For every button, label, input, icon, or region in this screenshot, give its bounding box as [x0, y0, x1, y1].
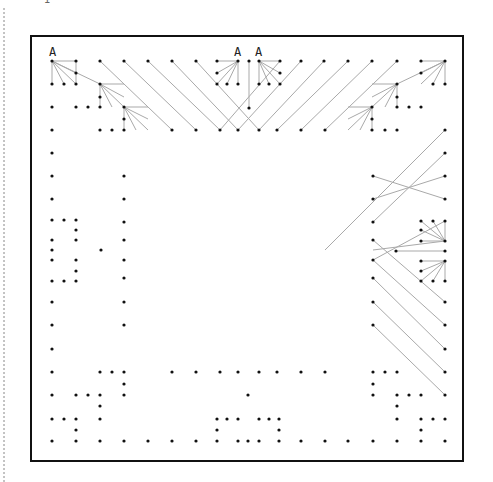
pin-dot: [146, 59, 149, 62]
bond-wire: [52, 61, 76, 84]
pin-dot: [50, 128, 53, 131]
pin-dot: [122, 276, 125, 279]
bond-wire: [100, 61, 172, 130]
pin-dot: [74, 228, 77, 231]
pin-dot: [62, 417, 65, 420]
pin-dot: [371, 258, 374, 261]
pin-dot: [299, 439, 302, 442]
pin-dot: [110, 370, 113, 373]
pin-dot: [443, 300, 446, 303]
pin-dot: [74, 82, 77, 85]
pin-dot: [371, 238, 374, 241]
pin-dot: [236, 417, 239, 420]
pin-dot: [215, 439, 218, 442]
pin-dot: [194, 439, 197, 442]
pin-dot: [194, 370, 197, 373]
bond-wire: [124, 61, 196, 130]
pin-dot: [236, 82, 239, 85]
pin-dot: [74, 59, 77, 62]
pin-dot: [122, 197, 125, 200]
pin-dot: [443, 439, 446, 442]
pin-dot: [215, 417, 218, 420]
pin-dot: [395, 417, 398, 420]
pin-dot: [99, 248, 102, 251]
pin-label: A: [49, 45, 57, 59]
pin-dot: [431, 219, 434, 222]
pin-dot: [247, 106, 250, 109]
pin-dot: [122, 300, 125, 303]
pin-dot: [50, 323, 53, 326]
pin-dot: [371, 393, 374, 396]
pin-dot: [443, 370, 446, 373]
pin-label: A: [255, 45, 263, 59]
pin-dot: [98, 105, 101, 108]
pin-dot: [74, 258, 77, 261]
pin-dot: [278, 59, 281, 62]
pin-dot: [407, 105, 410, 108]
pin-grid: [50, 59, 446, 442]
pin-dot: [419, 439, 422, 442]
pin-dot: [74, 105, 77, 108]
pin-dot: [50, 197, 53, 200]
pin-dot: [443, 128, 446, 131]
pin-dot: [86, 393, 89, 396]
pin-dot: [395, 128, 398, 131]
pin-dot: [122, 174, 125, 177]
pin-dot: [122, 382, 125, 385]
pin-dot: [122, 105, 125, 108]
pin-dot: [98, 95, 101, 98]
pin-dot: [50, 248, 53, 251]
pin-dot: [443, 347, 446, 350]
pin-dot: [50, 218, 53, 221]
pin-dot: [50, 174, 53, 177]
pin-dot: [395, 370, 398, 373]
bond-wire: [348, 107, 372, 130]
pin-dot: [419, 428, 422, 431]
pin-dot: [50, 439, 53, 442]
pin-dot: [257, 439, 260, 442]
pin-dot: [443, 197, 446, 200]
pin-dot: [74, 279, 77, 282]
pin-dot: [371, 370, 374, 373]
pin-dot: [50, 238, 53, 241]
pin-dot: [194, 128, 197, 131]
pin-dot: [419, 105, 422, 108]
pin-dot: [443, 59, 446, 62]
pin-dot: [277, 428, 280, 431]
pin-dot: [74, 439, 77, 442]
pin-dot: [74, 417, 77, 420]
pin-dot: [443, 219, 446, 222]
pin-dot: [443, 393, 446, 396]
bond-wire: [421, 61, 445, 84]
bond-wire: [217, 61, 238, 84]
pin-dot: [218, 370, 221, 373]
pin-dot: [419, 269, 422, 272]
pin-dot: [236, 59, 239, 62]
bond-wire: [421, 261, 445, 271]
pin-dot: [74, 71, 77, 74]
bond-wire: [277, 61, 348, 130]
bond-wire: [421, 261, 445, 281]
pin-dot: [50, 279, 53, 282]
pin-dot: [50, 82, 53, 85]
pin-dot: [299, 59, 302, 62]
pin-dot: [257, 370, 260, 373]
pin-dot: [215, 71, 218, 74]
pin-dot: [236, 370, 239, 373]
pin-dot: [218, 128, 221, 131]
pinout-diagram: AAA: [0, 0, 493, 482]
pin-dot: [277, 417, 280, 420]
pin-dot: [215, 82, 218, 85]
pin-dot: [74, 218, 77, 221]
pin-dot: [443, 82, 446, 85]
pin-dot: [122, 128, 125, 131]
pin-dot: [443, 239, 446, 242]
pin-dot: [215, 59, 218, 62]
pin-dot: [323, 439, 326, 442]
pin-dot: [170, 439, 173, 442]
pin-dot: [395, 439, 398, 442]
pin-dot: [122, 393, 125, 396]
pin-dot: [323, 128, 326, 131]
pin-dot: [62, 82, 65, 85]
pin-dot: [371, 220, 374, 223]
